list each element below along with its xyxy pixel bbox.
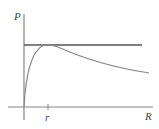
y-axis-label: P bbox=[13, 10, 21, 22]
power-curve bbox=[24, 45, 149, 107]
tick-label-r: r bbox=[45, 111, 50, 123]
power-curve-chart: P R r bbox=[0, 0, 159, 129]
x-axis-label: R bbox=[144, 110, 152, 122]
